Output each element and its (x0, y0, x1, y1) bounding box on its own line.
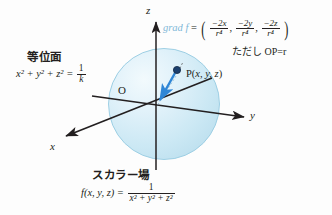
gradient-equals: = (191, 22, 197, 33)
gradient-component-x-denominator: r⁴ (210, 28, 229, 38)
level-surface-title: 等位面 (27, 48, 62, 64)
gradient-close-paren: ) (284, 20, 288, 38)
gradient-component-z-denominator: r⁴ (262, 28, 280, 38)
point-p-suffix: ) (219, 68, 223, 79)
scalar-field-denominator: x² + y² + z² (128, 193, 175, 204)
level-surface-equation: x² + y² + z² = 1 k (16, 64, 87, 85)
level-surface-denominator: k (77, 74, 86, 85)
level-surface-numerator: 1 (77, 64, 86, 74)
axis-label-y: y (250, 109, 255, 121)
gradient-open-paren: ( (201, 20, 205, 38)
gradient-component-y-denominator: r⁴ (236, 28, 255, 38)
scalar-field-fraction: 1 x² + y² + z² (128, 183, 175, 204)
axis-y (92, 96, 244, 117)
point-p-prefix: P( (186, 68, 195, 79)
figure-canvas: z y x O P(x, y, z) 等位面 x² + y² + z² = 1 … (0, 0, 332, 215)
gradient-component-y: −2y r⁴ (236, 19, 255, 39)
point-p-label: P(x, y, z) (186, 68, 222, 79)
scalar-field-title: スカラー場 (92, 166, 150, 182)
axis-x (66, 78, 212, 136)
scalar-field-numerator: 1 (128, 183, 175, 193)
origin-label: O (118, 84, 126, 96)
gradient-note: ただし OP=r (232, 43, 286, 58)
axis-label-x: x (50, 140, 55, 152)
level-surface-equation-lhs: x² + y² + z² = (16, 68, 73, 79)
gradient-component-y-numerator: −2y (236, 19, 255, 28)
point-p-vars: x, y, z (195, 68, 218, 79)
gradient-separator-1: , (229, 22, 232, 33)
radius-dash (157, 76, 176, 106)
level-surface-fraction: 1 k (77, 64, 86, 85)
gradient-separator-2: , (255, 22, 258, 33)
point-p-marker (173, 66, 180, 73)
gradient-component-z-numerator: −2z (262, 19, 280, 28)
gradient-expression: grad f = ( −2x r⁴ , −2y r⁴ , −2z r⁴ ) (163, 19, 290, 39)
axis-label-z: z (146, 4, 150, 16)
scalar-field-equation: f(x, y, z) = 1 x² + y² + z² (81, 183, 176, 204)
scalar-field-equation-lhs: f(x, y, z) = (81, 187, 124, 198)
gradient-component-x: −2x r⁴ (210, 19, 229, 39)
gradient-component-x-numerator: −2x (210, 19, 229, 28)
gradient-component-z: −2z r⁴ (262, 19, 280, 39)
gradient-label: grad f (163, 22, 188, 33)
